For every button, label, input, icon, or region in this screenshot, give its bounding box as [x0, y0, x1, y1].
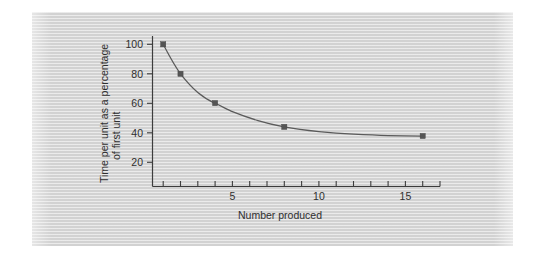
y-tick-label-40: 40 [131, 127, 143, 139]
figure-root: 100 80 60 40 20 5 10 15 [0, 0, 536, 263]
x-tick-label-15: 15 [400, 190, 412, 202]
x-axis-title: Number produced [238, 209, 322, 221]
data-point-x8 [282, 124, 287, 129]
data-point-markers [161, 42, 426, 139]
y-tick-label-60: 60 [131, 97, 143, 109]
data-point-x4 [213, 101, 218, 106]
y-tick-label-80: 80 [131, 68, 143, 80]
x-tick-label-5: 5 [229, 190, 235, 202]
y-axis-title-line2: of first unit [110, 111, 122, 160]
x-tick-label-10: 10 [313, 190, 325, 202]
data-point-x2 [178, 71, 183, 76]
data-point-x1 [161, 42, 166, 47]
x-tick-marks [163, 181, 440, 187]
y-axis-title-group: Time per unit as a percentage of first u… [98, 44, 122, 183]
y-tick-label-20: 20 [131, 156, 143, 168]
learning-curve-line [163, 44, 423, 136]
y-tick-label-100: 100 [125, 38, 143, 50]
learning-curve-plot: 100 80 60 40 20 5 10 15 [0, 0, 536, 263]
data-point-x16 [420, 133, 425, 138]
y-axis-title-line1: Time per unit as a percentage [98, 44, 110, 183]
y-tick-marks [147, 44, 153, 162]
